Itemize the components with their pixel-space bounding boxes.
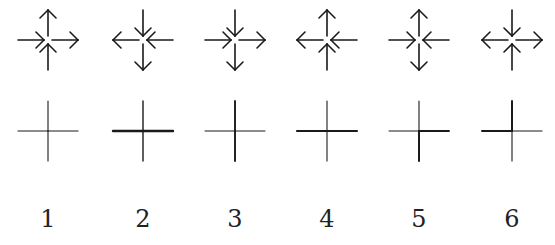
figure-label-5: 5 [399,205,439,233]
figure-label-2: 2 [123,205,163,233]
cross-figure-6 [482,101,542,161]
arrow-figure-3 [205,10,265,70]
arrow-figure-1 [18,10,78,70]
arrow-figure-6 [482,10,542,70]
cross-figure-1 [18,101,78,161]
cross-figure-3 [205,101,265,161]
cross-figure-2 [113,101,173,161]
cross-figure-4 [297,101,357,161]
figure-label-1: 1 [28,205,68,233]
arrow-figure-2 [113,10,173,70]
figure-label-3: 3 [215,205,255,233]
arrow-figure-4 [297,10,357,70]
arrow-figure-5 [389,10,449,70]
diagram-canvas [0,0,555,245]
cross-figure-5 [389,101,449,161]
figure-label-4: 4 [307,205,347,233]
figure-label-6: 6 [492,205,532,233]
